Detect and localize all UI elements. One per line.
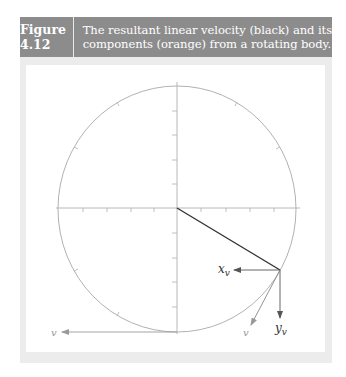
tangent-velocity-arrow — [251, 270, 280, 325]
y-axis-ticks — [172, 111, 177, 307]
v-tangent-label: v — [243, 327, 249, 338]
rotation-diagram: xv yv v v — [0, 0, 346, 377]
v-bottom-label: v — [51, 327, 57, 338]
yv-label: yv — [274, 321, 287, 337]
resultant-radius — [177, 208, 280, 270]
xv-label: xv — [218, 262, 230, 278]
